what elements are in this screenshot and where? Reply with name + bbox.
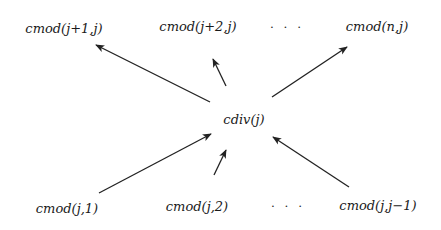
node-cmod-j-2: cmod(j,2): [166, 200, 228, 213]
edge-cmod-j-2-to-cdiv: [214, 150, 226, 175]
node-cmod-n: cmod(n,j): [346, 20, 408, 33]
diagram-canvas: cmod(j+1,j) cmod(j+2,j) · · · cmod(n,j) …: [0, 0, 441, 230]
node-cmod-j-plus-2: cmod(j+2,j): [159, 20, 236, 33]
ellipsis-top: · · ·: [270, 20, 305, 33]
node-cmod-j-plus-1: cmod(j+1,j): [25, 22, 102, 35]
node-cdiv: cdiv(j): [223, 113, 264, 126]
edge-cmod-j-jm1-to-cdiv: [273, 137, 349, 187]
node-cmod-j-jm1: cmod(j,j−1): [339, 199, 416, 212]
node-cmod-j-1: cmod(j,1): [36, 202, 98, 215]
edge-cdiv-to-cmod-n: [272, 47, 347, 97]
ellipsis-bottom: · · ·: [271, 199, 306, 212]
edge-cdiv-to-cmod-j-plus-2: [213, 59, 226, 86]
edge-cmod-j-1-to-cdiv: [99, 134, 211, 193]
edge-cdiv-to-cmod-j-plus-1: [96, 45, 210, 102]
